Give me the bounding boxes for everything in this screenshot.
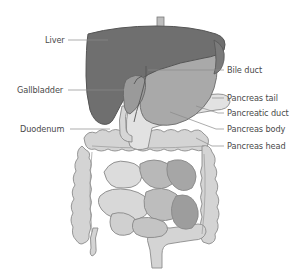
label-pancreatic-duct: Pancreatic duct — [227, 108, 289, 118]
small-intestine — [98, 160, 198, 238]
label-duodenum: Duodenum — [20, 124, 64, 134]
label-bile-duct: Bile duct — [227, 65, 262, 75]
label-pancreas-head: Pancreas head — [227, 141, 286, 151]
label-pancreas-tail: Pancreas tail — [227, 93, 278, 103]
label-gallbladder: Gallbladder — [17, 85, 63, 95]
label-pancreas-body: Pancreas body — [227, 124, 285, 134]
label-liver: Liver — [45, 35, 65, 45]
